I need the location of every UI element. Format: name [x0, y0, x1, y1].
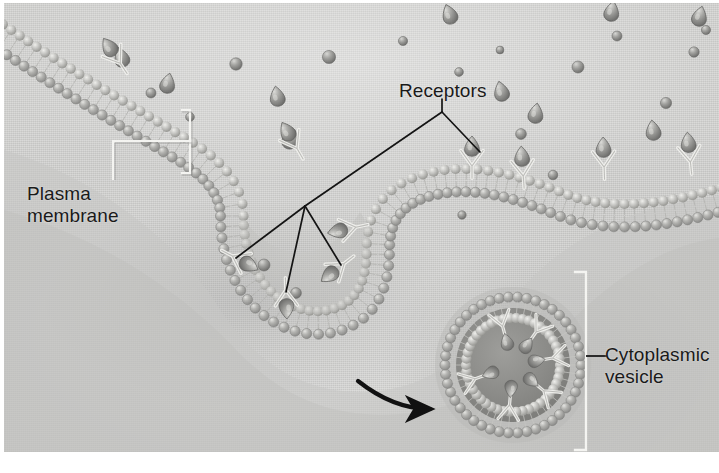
label-plasma-membrane: Plasma membrane: [27, 183, 119, 227]
endocytosis-figure: Plasma membrane Receptors Cytoplasmic ve…: [0, 0, 719, 473]
teardrop-ligand-icon: [514, 146, 530, 167]
teardrop-ligand-icon: [596, 137, 611, 158]
plate-bottom-margin: [0, 452, 719, 473]
teardrop-ligand-icon: [268, 85, 286, 108]
free-particle: [455, 68, 464, 77]
free-particle: [458, 211, 466, 219]
free-particle: [146, 88, 156, 98]
teardrop-ligand-icon: [527, 102, 544, 124]
teardrop-ligand-icon: [439, 2, 460, 26]
free-particle: [230, 58, 242, 70]
label-receptors: Receptors: [399, 80, 487, 102]
teardrop-ligand-icon: [158, 72, 177, 95]
free-particle: [516, 129, 527, 140]
teardrop-ligand-icon: [680, 131, 697, 153]
free-particle: [548, 170, 558, 180]
free-particle: [612, 31, 622, 41]
free-particle: [701, 25, 710, 34]
free-particle: [572, 61, 584, 73]
free-particle: [258, 259, 270, 271]
label-cytoplasmic-vesicle: Cytoplasmic vesicle: [605, 344, 710, 388]
free-particle: [496, 46, 504, 54]
teardrop-ligand-icon: [279, 298, 294, 319]
plate-top-margin: [0, 0, 719, 3]
free-particle: [322, 50, 335, 63]
teardrop-ligand-icon: [644, 119, 661, 141]
teardrop-ligand-icon: [492, 79, 511, 102]
teardrop-ligand-icon: [603, 0, 621, 22]
free-particle: [660, 97, 671, 108]
illustration-artwork: [0, 0, 719, 473]
free-particle: [398, 36, 407, 45]
teardrop-ligand-icon: [690, 4, 709, 27]
free-particle: [689, 47, 699, 57]
plate-left-margin: [0, 0, 4, 473]
